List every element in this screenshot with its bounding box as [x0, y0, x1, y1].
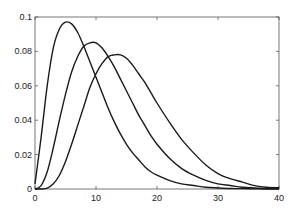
y-tick-label: 0.02	[14, 150, 32, 160]
x-tick-label: 0	[32, 193, 37, 203]
y-axis-tick-labels: 0 0.02 0.04 0.06 0.08 0.1	[14, 12, 32, 194]
y-tick-label: 0.1	[19, 12, 32, 22]
y-tick-label: 0.06	[14, 81, 32, 91]
y-tick-label: 0	[27, 184, 32, 194]
x-tick-label: 20	[152, 193, 162, 203]
x-tick-label: 40	[274, 193, 284, 203]
y-tick-label: 0.04	[14, 115, 32, 125]
x-tick-label: 30	[213, 193, 223, 203]
x-tick-label: 10	[91, 193, 101, 203]
x-axis-tick-labels: 0 10 20 30 40	[32, 193, 284, 203]
line-chart: 0 10 20 30 40 0 0.02 0.04 0.06 0.08 0.1	[0, 0, 299, 215]
y-tick-label: 0.08	[14, 46, 32, 56]
